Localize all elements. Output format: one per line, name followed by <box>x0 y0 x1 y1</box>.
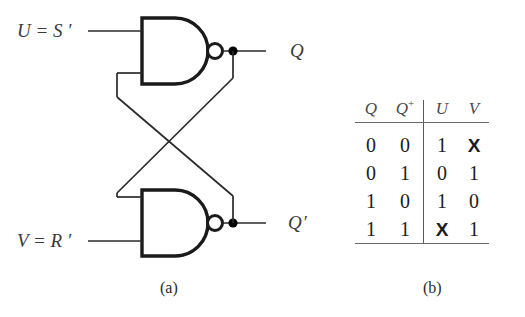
table-spacer-row <box>355 123 489 132</box>
circuit-diagram: U = S ′ V = R ′ Q Q′ <box>0 0 330 270</box>
cell-q: 1 <box>355 187 387 215</box>
cell-q: 1 <box>355 215 387 244</box>
cell-v: X <box>459 131 489 159</box>
table-row: 0 1 0 1 <box>355 159 489 187</box>
col-header-qplus: Q+ <box>387 100 424 123</box>
figure-root: U = S ′ V = R ′ Q Q′ (a) Q Q+ U V <box>0 0 525 317</box>
cell-qplus: 1 <box>387 215 424 244</box>
cell-u: 0 <box>425 159 459 187</box>
cell-qplus: 0 <box>387 187 424 215</box>
table-row: 1 0 1 0 <box>355 187 489 215</box>
col-header-qplus-base: Q <box>396 99 408 118</box>
cell-q: 0 <box>355 159 387 187</box>
table-row: 0 0 1 X <box>355 131 489 159</box>
spacer-cell <box>425 123 459 132</box>
output-label-qprime-mark: ′ <box>302 212 308 233</box>
nand-gate-top-bubble <box>208 44 223 59</box>
input-label-v-text: V = R ′ <box>17 230 71 251</box>
nand-gate-top-body <box>142 18 208 84</box>
cell-q: 0 <box>355 131 387 159</box>
col-header-qplus-sup: + <box>408 97 414 109</box>
output-label-qprime: Q′ <box>288 213 308 232</box>
caption-b: (b) <box>423 279 442 297</box>
col-header-v: V <box>459 100 489 123</box>
col-header-u: U <box>425 100 459 123</box>
spacer-cell <box>459 123 489 132</box>
nand-gate-bottom-body <box>142 190 208 256</box>
cell-qplus: 0 <box>387 131 424 159</box>
cell-v: 1 <box>459 215 489 244</box>
output-label-q-text: Q <box>290 40 304 61</box>
cell-v: 0 <box>459 187 489 215</box>
truth-table-container: Q Q+ U V 0 0 1 X <box>355 100 495 244</box>
spacer-cell <box>387 123 424 132</box>
output-label-q: Q <box>290 41 304 60</box>
wire-cross-q-to-bottom <box>117 78 233 193</box>
cell-u: 1 <box>425 187 459 215</box>
wire-cross-qprime-to-top <box>117 97 233 196</box>
output-label-qprime-text: Q <box>288 212 302 233</box>
input-label-v: V = R ′ <box>17 231 71 250</box>
spacer-cell <box>355 123 387 132</box>
caption-a: (a) <box>160 279 178 297</box>
truth-table: Q Q+ U V 0 0 1 X <box>355 100 489 244</box>
table-row: 1 1 X 1 <box>355 215 489 244</box>
cell-v: 1 <box>459 159 489 187</box>
input-label-u: U = S ′ <box>17 21 71 40</box>
nand-gate-bottom-bubble <box>208 216 223 231</box>
col-header-q: Q <box>355 100 387 123</box>
input-label-u-text: U = S ′ <box>17 20 71 41</box>
cell-u: 1 <box>425 131 459 159</box>
cell-u: X <box>425 215 459 244</box>
truth-table-header-row: Q Q+ U V <box>355 100 489 123</box>
cell-qplus: 1 <box>387 159 424 187</box>
